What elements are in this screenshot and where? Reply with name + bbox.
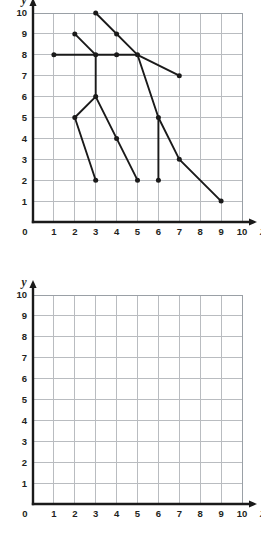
data-point <box>177 157 182 162</box>
y-tick-label: 3 <box>22 436 27 447</box>
x-tick-label: 1 <box>51 508 57 519</box>
data-point <box>114 136 119 141</box>
y-tick-label: 4 <box>22 133 28 144</box>
data-point <box>114 52 119 57</box>
y-tick-label: 7 <box>22 70 27 81</box>
x-tick-label: 5 <box>135 508 141 519</box>
data-point <box>93 52 98 57</box>
data-point <box>219 199 224 204</box>
x-tick-label: 3 <box>93 508 98 519</box>
x-tick-label: 10 <box>237 508 248 519</box>
top-coordinate-panel: 12345678910012345678910xy <box>0 0 261 262</box>
data-point <box>135 52 140 57</box>
worksheet-page: 12345678910012345678910xy 12345678910012… <box>0 0 261 540</box>
data-point <box>72 115 77 120</box>
bottom-panel-canvas: 12345678910012345678910xy <box>0 262 261 540</box>
y-tick-label: 5 <box>22 394 28 405</box>
data-point <box>114 31 119 36</box>
top-panel-canvas: 12345678910012345678910xy <box>0 0 261 262</box>
origin-label: 0 <box>22 226 27 237</box>
y-tick-label: 8 <box>22 331 27 342</box>
origin-label: 0 <box>22 508 27 519</box>
y-axis-arrow-icon <box>29 0 36 6</box>
x-tick-label: 5 <box>135 226 141 237</box>
y-axis-label: y <box>19 0 27 7</box>
x-axis-arrow-icon <box>249 218 257 225</box>
y-tick-label: 4 <box>22 415 28 426</box>
data-point <box>93 178 98 183</box>
y-tick-label: 8 <box>22 49 27 60</box>
data-point <box>93 94 98 99</box>
y-tick-label: 9 <box>22 28 27 39</box>
x-tick-label: 10 <box>237 226 248 237</box>
y-tick-label: 10 <box>16 289 27 300</box>
data-point <box>72 31 77 36</box>
y-tick-label: 1 <box>22 196 28 207</box>
x-tick-label: 8 <box>198 226 203 237</box>
data-point <box>93 11 98 16</box>
y-tick-label: 7 <box>22 352 27 363</box>
x-tick-label: 7 <box>177 226 182 237</box>
x-tick-label: 2 <box>72 508 77 519</box>
y-tick-label: 6 <box>22 373 27 384</box>
x-axis-label: x <box>259 225 261 237</box>
x-axis-label: x <box>259 507 261 519</box>
x-tick-label: 6 <box>156 508 161 519</box>
y-axis-label: y <box>19 276 27 289</box>
y-tick-label: 5 <box>22 112 28 123</box>
data-point <box>156 178 161 183</box>
x-tick-label: 9 <box>218 226 223 237</box>
x-tick-label: 7 <box>177 508 182 519</box>
x-tick-label: 1 <box>51 226 57 237</box>
data-point <box>135 178 140 183</box>
x-axis-arrow-icon <box>249 500 257 507</box>
y-tick-label: 3 <box>22 154 27 165</box>
y-tick-label: 6 <box>22 91 27 102</box>
y-tick-label: 10 <box>16 7 27 18</box>
data-point <box>156 115 161 120</box>
x-tick-label: 6 <box>156 226 161 237</box>
x-tick-label: 9 <box>218 508 223 519</box>
bottom-coordinate-panel: 12345678910012345678910xy <box>0 262 261 540</box>
y-tick-label: 9 <box>22 310 27 321</box>
x-tick-label: 4 <box>114 508 120 519</box>
y-tick-label: 1 <box>22 478 28 489</box>
y-tick-label: 2 <box>22 457 27 468</box>
x-tick-label: 4 <box>114 226 120 237</box>
y-axis-arrow-icon <box>29 280 36 288</box>
data-point <box>51 52 56 57</box>
data-point <box>177 73 182 78</box>
x-tick-label: 3 <box>93 226 98 237</box>
x-tick-label: 8 <box>198 508 203 519</box>
y-tick-label: 2 <box>22 175 27 186</box>
x-tick-label: 2 <box>72 226 77 237</box>
